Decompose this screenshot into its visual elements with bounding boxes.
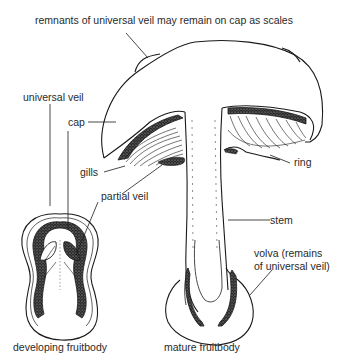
label-mature-fruitbody: mature fruitbody xyxy=(164,341,240,353)
label-volva-line1: volva (remains xyxy=(254,247,322,259)
volva-outline xyxy=(166,268,254,345)
label-cap: cap xyxy=(68,116,85,128)
label-developing-fruitbody: developing fruitbody xyxy=(13,341,107,353)
label-universal-veil: universal veil xyxy=(23,91,84,103)
mushroom-diagram xyxy=(0,0,348,362)
label-volva-line2: of universal veil) xyxy=(254,260,330,272)
label-cap-scales: remnants of universal veil may remain on… xyxy=(35,14,293,26)
label-partial-veil: partial veil xyxy=(101,190,148,202)
developing-fruitbody-drawing xyxy=(22,214,98,340)
label-gills: gills xyxy=(80,166,98,178)
label-stem: stem xyxy=(270,214,293,226)
label-ring: ring xyxy=(294,156,312,168)
